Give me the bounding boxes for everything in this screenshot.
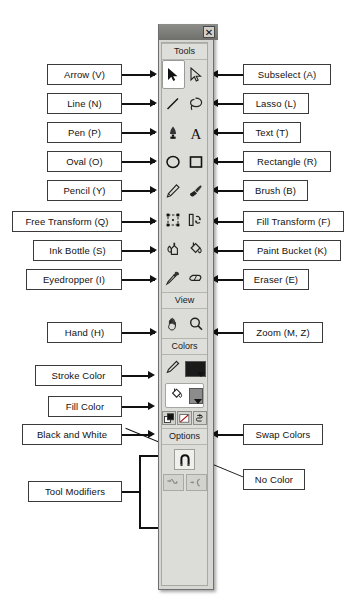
fill-color-swatch[interactable] bbox=[189, 388, 203, 404]
tool-brush[interactable] bbox=[185, 176, 208, 205]
callout-oval: Oval (O) bbox=[47, 151, 122, 172]
tool-paint-bucket[interactable] bbox=[185, 234, 208, 263]
callout-subselect: Subselect (A) bbox=[243, 64, 331, 85]
section-header-options: Options bbox=[162, 428, 207, 445]
tool-subselect[interactable] bbox=[185, 60, 208, 89]
tool-zoom[interactable] bbox=[185, 309, 208, 338]
callout-line: Line (N) bbox=[47, 93, 122, 114]
svg-text:A: A bbox=[190, 125, 201, 141]
tool-text[interactable]: A bbox=[185, 118, 208, 147]
tool-arrow[interactable] bbox=[162, 60, 185, 89]
callout-fill-transform: Fill Transform (F) bbox=[243, 211, 344, 232]
callout-rectangle: Rectangle (R) bbox=[243, 151, 331, 172]
section-header-colors: Colors bbox=[162, 338, 207, 355]
close-icon[interactable]: ✕ bbox=[203, 26, 215, 38]
tool-pencil[interactable] bbox=[162, 176, 185, 205]
stroke-color-swatch[interactable] bbox=[185, 361, 206, 377]
tools-grid: A bbox=[162, 60, 207, 292]
fill-color-row bbox=[165, 383, 204, 408]
tool-rectangle[interactable] bbox=[185, 147, 208, 176]
callout-paint-bucket: Paint Bucket (K) bbox=[243, 240, 341, 261]
callout-pencil: Pencil (Y) bbox=[47, 180, 122, 201]
callout-text: Text (T) bbox=[243, 122, 301, 143]
callout-arrow: Arrow (V) bbox=[47, 64, 122, 85]
callout-pen: Pen (P) bbox=[47, 122, 122, 143]
tool-hand[interactable] bbox=[162, 309, 185, 338]
panel-titlebar[interactable]: ✕ bbox=[159, 24, 218, 40]
color-modifier-row bbox=[162, 409, 207, 428]
panel-body: Tools A bbox=[161, 42, 208, 586]
tool-eyedropper[interactable] bbox=[162, 263, 185, 292]
callout-swap-colors: Swap Colors bbox=[243, 424, 323, 445]
tool-pen[interactable] bbox=[162, 118, 185, 147]
callout-eyedropper: Eyedropper (I) bbox=[26, 269, 122, 290]
callout-free-transform: Free Transform (Q) bbox=[12, 211, 122, 232]
tool-fill-transform[interactable] bbox=[185, 205, 208, 234]
callout-lasso: Lasso (L) bbox=[243, 93, 309, 114]
view-tools-grid bbox=[162, 309, 207, 338]
tool-oval[interactable] bbox=[162, 147, 185, 176]
section-header-view: View bbox=[162, 292, 207, 309]
callout-no-color: No Color bbox=[243, 469, 305, 490]
tool-lasso[interactable] bbox=[185, 89, 208, 118]
callout-eraser: Eraser (E) bbox=[243, 269, 309, 290]
options-box bbox=[162, 445, 207, 491]
callout-black-and-white: Black and White bbox=[22, 424, 122, 445]
tool-line[interactable] bbox=[162, 89, 185, 118]
tool-eraser[interactable] bbox=[185, 263, 208, 292]
tool-free-transform[interactable] bbox=[162, 205, 185, 234]
pencil-stroke-icon bbox=[165, 360, 181, 378]
smooth-icon[interactable] bbox=[163, 474, 184, 491]
callout-fill-color: Fill Color bbox=[48, 396, 122, 417]
swap-colors-icon[interactable] bbox=[193, 411, 207, 425]
callout-hand: Hand (H) bbox=[47, 322, 122, 343]
tool-ink-bottle[interactable] bbox=[162, 234, 185, 263]
tools-panel: ✕ Tools A bbox=[158, 24, 214, 590]
section-header-tools: Tools bbox=[162, 43, 207, 60]
no-color-icon[interactable] bbox=[177, 411, 191, 425]
callout-ink-bottle: Ink Bottle (S) bbox=[33, 240, 122, 261]
options-button-pair bbox=[163, 474, 207, 491]
snap-magnet-icon[interactable] bbox=[174, 449, 195, 470]
stroke-color-row bbox=[162, 355, 207, 382]
callout-stroke-color: Stroke Color bbox=[35, 365, 122, 386]
straighten-icon[interactable] bbox=[186, 474, 207, 491]
paint-bucket-fill-icon bbox=[169, 387, 185, 405]
callout-zoom: Zoom (M, Z) bbox=[243, 322, 323, 343]
callout-tool-modifiers: Tool Modifiers bbox=[28, 481, 122, 502]
callout-brush: Brush (B) bbox=[243, 180, 308, 201]
black-and-white-icon[interactable] bbox=[162, 411, 176, 425]
